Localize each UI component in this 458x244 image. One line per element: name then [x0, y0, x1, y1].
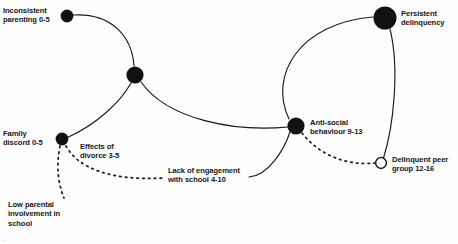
node-label-inconsistent-parenting: Inconsistent parenting 0-5 — [3, 6, 58, 25]
edge-anti-social-behaviour-to-delinquent-peer-group — [302, 133, 375, 164]
diagram-graphics — [0, 0, 458, 244]
edge-junction-central-to-anti-social-behaviour — [141, 82, 288, 128]
node-junction-central[interactable] — [126, 66, 143, 83]
label-low-parental-involvement: Low parental involvement in school — [8, 200, 60, 228]
edge-junction-central-to-family-discord — [69, 83, 132, 137]
edge-persistent-delinquency-to-delinquent-peer-group — [384, 29, 395, 158]
node-inconsistent-parenting[interactable] — [61, 10, 74, 23]
node-delinquent-peer-group[interactable] — [376, 158, 387, 169]
corner-artifact: ... — [2, 236, 7, 242]
node-label-anti-social-behaviour: Anti-social behaviour 9-13 — [310, 118, 362, 137]
edge-lack-of-engagement-to-anti-social-behaviour — [249, 132, 290, 177]
node-persistent-delinquency[interactable] — [374, 7, 397, 30]
label-effects-of-divorce: Effects of divorce 3-5 — [80, 142, 119, 161]
node-anti-social-behaviour[interactable] — [287, 117, 304, 134]
diagram-canvas: Inconsistent parenting 0-5Persistent del… — [0, 0, 458, 244]
edge-anti-social-behaviour-to-persistent-delinquency — [283, 17, 373, 119]
edge-family-discord-to-low-parental-involvement — [58, 146, 64, 198]
node-label-persistent-delinquency: Persistent delinquency — [401, 9, 444, 28]
edge-inconsistent-parenting-to-junction-central — [74, 15, 135, 66]
label-lack-of-engagement: Lack of engagement with school 4-10 — [168, 166, 240, 185]
node-label-delinquent-peer-group: Delinquent peer group 12-16 — [392, 155, 448, 174]
node-label-family-discord: Family discord 0-5 — [3, 129, 58, 148]
